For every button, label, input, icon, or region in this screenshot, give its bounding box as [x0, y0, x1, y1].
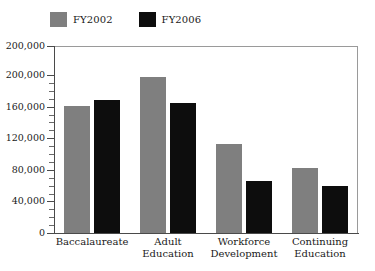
y-axis-label: 0 — [1, 228, 45, 238]
y-axis-label: 120,000 — [1, 133, 45, 143]
y-axis-minor-tick — [49, 130, 54, 131]
y-axis-minor-tick — [49, 162, 54, 163]
legend-label-fy2006: FY2006 — [162, 15, 202, 25]
y-axis-minor-tick — [49, 146, 54, 147]
y-axis-minor-tick — [49, 217, 54, 218]
y-axis-label-wrap: 160,000 — [0, 107, 45, 108]
legend-item-fy2006: FY2006 — [139, 12, 202, 27]
y-axis-line — [54, 46, 55, 234]
y-axis-minor-tick — [49, 178, 54, 179]
y-axis-label: 160,000 — [1, 102, 45, 112]
legend-swatch-fy2006 — [139, 12, 156, 27]
y-axis-minor-tick — [49, 83, 54, 84]
y-axis-tick — [47, 138, 54, 139]
x-axis-line — [54, 233, 359, 234]
x-axis-category-label: Adult Education — [130, 236, 206, 259]
y-axis-label-wrap: 200,000 — [0, 75, 45, 76]
legend-item-fy2002: FY2002 — [50, 12, 113, 27]
y-axis-label: 200,000 — [1, 41, 45, 51]
y-axis-minor-tick — [49, 115, 54, 116]
y-axis-tick — [47, 201, 54, 202]
y-axis-tick — [47, 75, 54, 76]
y-axis-tick — [47, 170, 54, 171]
y-axis-tick — [47, 107, 54, 108]
y-axis-label-wrap: 200,000 — [0, 46, 45, 47]
chart-legend: FY2002 FY2006 — [50, 12, 201, 27]
y-axis-label: 200,000 — [1, 70, 45, 80]
x-axis-category-label: Workforce Development — [206, 236, 282, 259]
x-axis-category-label: Continuing Education — [282, 236, 358, 259]
x-axis-category-label: Baccalaureate — [54, 236, 130, 248]
y-axis-minor-tick — [49, 91, 54, 92]
legend-swatch-fy2002 — [50, 12, 67, 27]
y-axis-label: 80,000 — [1, 165, 45, 175]
y-axis-minor-tick — [49, 194, 54, 195]
y-axis-minor-tick — [49, 154, 54, 155]
y-axis-label: 40,000 — [1, 196, 45, 206]
bar-chart: FY2002 FY2006 040,00080,000120,000160,00… — [0, 0, 375, 271]
y-axis-tick — [47, 233, 54, 234]
legend-label-fy2002: FY2002 — [73, 15, 113, 25]
y-axis-minor-tick — [49, 209, 54, 210]
y-axis-minor-tick — [49, 225, 54, 226]
y-axis-label-wrap: 40,000 — [0, 201, 45, 202]
y-axis-tick — [47, 46, 54, 47]
y-axis-minor-tick — [49, 99, 54, 100]
y-axis-minor-tick — [49, 186, 54, 187]
y-axis-minor-tick — [49, 122, 54, 123]
plot-frame — [54, 46, 358, 233]
y-axis-label-wrap: 0 — [0, 233, 45, 234]
y-axis-label-wrap: 80,000 — [0, 170, 45, 171]
y-axis-label-wrap: 120,000 — [0, 138, 45, 139]
